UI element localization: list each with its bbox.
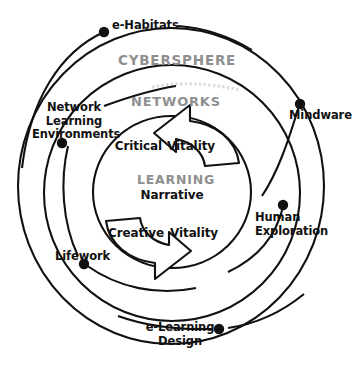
- node-label-mindware[interactable]: Mindware: [289, 109, 352, 122]
- ring-label-cybersphere: CYBERSPHERE: [118, 52, 236, 68]
- center-label-vitality-bottom: Vitality: [170, 227, 230, 240]
- node-label-network-learning-environments[interactable]: Network Learning Environments: [32, 101, 116, 142]
- node-label-human-exploration[interactable]: Human Exploration: [255, 211, 328, 238]
- ring-label-learning: LEARNING: [137, 172, 215, 187]
- node-label-nle-line-1: Network: [32, 101, 116, 115]
- center-label-narrative: Narrative: [135, 189, 209, 202]
- node-dot-human-exploration[interactable]: [278, 200, 288, 210]
- connector-lifework-tail: [63, 146, 78, 256]
- diagram-canvas: CYBERSPHERE NETWORKS LEARNING Narrative …: [0, 0, 362, 370]
- node-label-e-learning-design-line-1: e-Learning: [140, 321, 220, 335]
- node-label-e-learning-design-line-2: Design: [140, 335, 220, 349]
- node-label-e-habitats[interactable]: e-Habitats: [112, 19, 179, 32]
- center-label-creative: Creative: [104, 227, 164, 240]
- ring-label-networks: NETWORKS: [131, 94, 221, 109]
- node-label-e-learning-design[interactable]: e-Learning Design: [140, 321, 220, 348]
- node-label-nle-line-2: Learning: [32, 115, 116, 129]
- center-label-vitality-top: Vitality: [167, 140, 227, 153]
- node-label-nle-line-3: Environments: [32, 128, 116, 142]
- node-dot-e-habitats[interactable]: [99, 27, 109, 37]
- node-label-human-exploration-line-2: Exploration: [255, 225, 328, 239]
- connector-lifework: [86, 265, 196, 291]
- node-label-lifework[interactable]: Lifework: [55, 250, 110, 263]
- center-label-critical: Critical: [105, 140, 162, 153]
- node-label-human-exploration-line-1: Human: [255, 211, 328, 225]
